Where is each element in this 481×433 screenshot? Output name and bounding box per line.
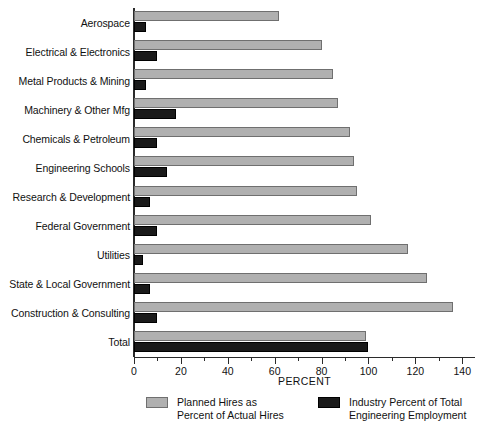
plot-area	[134, 8, 474, 357]
bar-planned-hires	[134, 40, 322, 50]
bar-industry-percent	[134, 167, 167, 177]
bar-planned-hires	[134, 186, 357, 196]
bar-row	[134, 270, 474, 299]
y-axis-label: Construction & Consulting	[0, 307, 130, 319]
y-axis-label: Chemicals & Petroleum	[0, 133, 130, 145]
x-tick-major	[462, 358, 463, 364]
x-tick-minor	[345, 358, 346, 361]
legend-item-planned-hires: Planned Hires as Percent of Actual Hires	[146, 396, 284, 422]
bar-planned-hires	[134, 302, 453, 312]
bar-industry-percent	[134, 80, 146, 90]
bar-planned-hires	[134, 11, 279, 21]
x-tick-minor	[251, 358, 252, 361]
legend-label-industry-percent-line1: Industry Percent of Total	[349, 396, 462, 408]
x-tick-minor	[204, 358, 205, 361]
y-axis-label: Engineering Schools	[0, 162, 130, 174]
x-tick-minor	[439, 358, 440, 361]
x-tick-minor	[298, 358, 299, 361]
bar-planned-hires	[134, 244, 408, 254]
y-axis-label: Metal Products & Mining	[0, 75, 130, 87]
legend-label-planned-hires-line2: Percent of Actual Hires	[177, 409, 284, 421]
bar-row	[134, 153, 474, 182]
x-tick-major	[134, 358, 135, 364]
y-axis-label: Aerospace	[0, 17, 130, 29]
bar-industry-percent	[134, 22, 146, 32]
bar-industry-percent	[134, 284, 150, 294]
bar-row	[134, 241, 474, 270]
y-axis-label: Utilities	[0, 249, 130, 261]
bar-industry-percent	[134, 197, 150, 207]
y-axis-label: Total	[0, 336, 130, 348]
y-axis-label: Electrical & Electronics	[0, 46, 130, 58]
legend-swatch-gray-icon	[146, 397, 168, 408]
bar-row	[134, 66, 474, 95]
x-tick-major	[322, 358, 323, 364]
bar-row	[134, 212, 474, 241]
bar-row	[134, 124, 474, 153]
bar-row	[134, 8, 474, 37]
bar-row	[134, 299, 474, 328]
x-tick-minor	[392, 358, 393, 361]
y-axis-label: Research & Development	[0, 191, 130, 203]
x-axis-title: PERCENT	[134, 375, 475, 387]
bar-row	[134, 37, 474, 66]
x-tick-major	[275, 358, 276, 364]
legend-label-planned-hires: Planned Hires as Percent of Actual Hires	[177, 396, 284, 422]
bar-industry-percent	[134, 342, 368, 352]
bar-industry-percent	[134, 226, 157, 236]
x-tick-major	[181, 358, 182, 364]
bar-industry-percent	[134, 313, 157, 323]
y-axis-label: Federal Government	[0, 220, 130, 232]
y-axis-label: Machinery & Other Mfg	[0, 104, 130, 116]
bar-planned-hires	[134, 69, 333, 79]
bar-planned-hires	[134, 331, 366, 341]
bar-industry-percent	[134, 255, 143, 265]
bar-planned-hires	[134, 98, 338, 108]
bar-planned-hires	[134, 127, 350, 137]
bar-industry-percent	[134, 51, 157, 61]
y-axis-label: State & Local Government	[0, 278, 130, 290]
bar-rows	[134, 8, 474, 357]
bar-industry-percent	[134, 138, 157, 148]
bar-row	[134, 328, 474, 357]
legend-label-industry-percent: Industry Percent of Total Engineering Em…	[349, 396, 466, 422]
x-tick-major	[415, 358, 416, 364]
bar-industry-percent	[134, 109, 176, 119]
legend-item-industry-percent: Industry Percent of Total Engineering Em…	[318, 396, 466, 422]
x-tick-minor	[157, 358, 158, 361]
bar-planned-hires	[134, 273, 427, 283]
legend-swatch-black-icon	[318, 397, 340, 408]
bar-row	[134, 183, 474, 212]
bar-planned-hires	[134, 215, 371, 225]
bar-chart: AerospaceElectrical & ElectronicsMetal P…	[0, 0, 481, 433]
legend-label-industry-percent-line2: Engineering Employment	[349, 409, 466, 421]
bar-row	[134, 95, 474, 124]
x-tick-major	[368, 358, 369, 364]
legend-label-planned-hires-line1: Planned Hires as	[177, 396, 257, 408]
y-axis-category-labels: AerospaceElectrical & ElectronicsMetal P…	[0, 8, 130, 357]
chart-legend: Planned Hires as Percent of Actual Hires…	[0, 396, 481, 433]
bar-planned-hires	[134, 156, 354, 166]
x-tick-major	[228, 358, 229, 364]
